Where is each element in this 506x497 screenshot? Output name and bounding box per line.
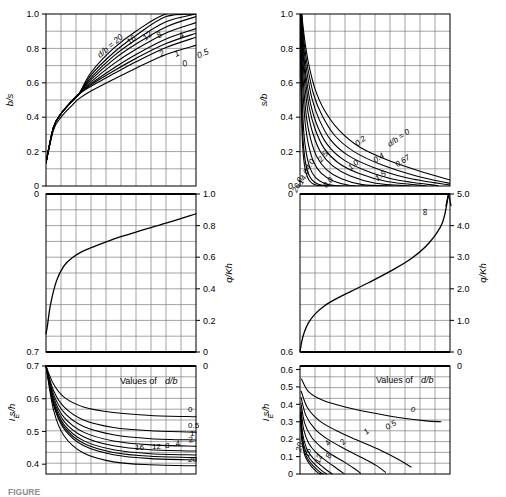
panel-mid-left: 00.71.00.80.60.40.20q/Kh <box>26 189 234 357</box>
bottom-right-ytick-label: 0.6 <box>280 365 293 375</box>
bottom-right-ytick-label: 0.5 <box>280 382 293 392</box>
bottom-left-ytick-label: 0.6 <box>26 394 39 404</box>
bottom-right-curve-label-0: 0 <box>411 405 416 414</box>
top-right-ytick-label: 0.2 <box>280 147 293 157</box>
bottom-left-curve-label-20: 20 <box>188 455 197 464</box>
figure-caption: FIGURE <box>8 487 40 497</box>
bottom-right-ytick-label: 0.1 <box>280 452 293 462</box>
mid-right-ytick-label: 2.0 <box>457 284 470 294</box>
top-right-ytick-label: 0.4 <box>280 112 293 122</box>
top-left-axis-title: b/s <box>4 93 15 106</box>
bottom-left-curve-label-16: 16 <box>135 443 144 452</box>
bottom-left-ytick-label: 0.4 <box>26 459 39 469</box>
top-right-ytick-label: 0.8 <box>280 44 293 54</box>
top-right-ytick-label: 0.6 <box>280 78 293 88</box>
bottom-left-legend-title: Values of d/b <box>120 376 178 386</box>
mid-left-ytick-label: 0.8 <box>203 221 216 231</box>
bottom-right-ytick-label: 0.4 <box>280 400 293 410</box>
bottom-right-legend-db: d/b <box>421 375 434 385</box>
bottom-right-legend-title: Values of d/b <box>376 375 434 385</box>
bottom-left-right-tick: 0 <box>203 361 208 371</box>
bottom-right-axis-title: IE s/h <box>260 404 274 422</box>
mid-right-infinity-marker: ∞ <box>419 208 430 215</box>
top-left-ytick-label: 0.4 <box>26 112 39 122</box>
bottom-left-curve-label-0: 0 <box>188 405 193 414</box>
mid-right-left-tick-top: 0 <box>288 189 293 199</box>
mid-right-ytick-label: 3.0 <box>457 252 470 262</box>
mid-right-axis-title: q/Kh <box>477 263 488 283</box>
mid-left-ytick-label: 0 <box>203 347 208 357</box>
top-left-ytick-label: 1.0 <box>26 9 39 19</box>
bottom-left-ytick-label: 0.7 <box>26 361 39 371</box>
top-left-curve-label-0.5: 0.5 <box>195 46 210 60</box>
mid-right-left-tick-bottom: 0.6 <box>280 347 293 357</box>
mid-left-ytick-label: 1.0 <box>203 189 216 199</box>
mid-right-ytick-label: 1.0 <box>457 316 470 326</box>
top-left-ytick-label: 0.6 <box>26 78 39 88</box>
bottom-right-right-tick: 0 <box>457 361 462 371</box>
panel-mid-right: 00.65.04.03.02.01.00q/Kh∞ <box>280 189 488 357</box>
mid-left-axis-title: q/Kh <box>223 263 234 283</box>
bottom-left-axis-title: IE s/h <box>6 404 20 422</box>
mid-right-ytick-label: 4.0 <box>457 221 470 231</box>
bottom-right-ytick-label: 0.3 <box>280 417 293 427</box>
top-right-axis-title: s/b <box>258 94 269 107</box>
top-right-ytick-label: 1.0 <box>280 9 293 19</box>
mid-left-left-tick-top: 0 <box>34 189 39 199</box>
bottom-right-ytick-label: 0.2 <box>280 434 293 444</box>
figure-caption-text: FIGURE <box>8 487 40 497</box>
mid-left-ytick-label: 0.4 <box>203 284 216 294</box>
top-left-ytick-label: 0.2 <box>26 147 39 157</box>
panel-bottom-left: 0.70.60.50.40IE s/hValues of d/b00.51248… <box>6 361 208 474</box>
mid-right-ytick-label: 0 <box>457 347 462 357</box>
bottom-left-curve-label-8: 8 <box>165 441 170 450</box>
nomograph-canvas: 1.00.80.60.40.20b/sd/b = 20161284210.500… <box>0 0 506 497</box>
mid-right-ytick-label: 5.0 <box>457 189 470 199</box>
mid-left-left-tick-bottom: 0.7 <box>26 347 39 357</box>
panel-bottom-right: 0.60.50.40.30.20.100IE s/hValues of d/b0… <box>260 361 462 479</box>
bottom-left-curve-label-12: 12 <box>152 442 161 451</box>
panel-top-left: 1.00.80.60.40.20b/sd/b = 20161284210.50 <box>4 9 210 191</box>
bottom-left-ytick-label: 0.5 <box>26 427 39 437</box>
bottom-left-legend-values-of: Values of <box>120 376 157 386</box>
figure-root: 1.00.80.60.40.20b/sd/b = 20161284210.500… <box>0 0 506 497</box>
bottom-right-legend-values-of: Values of <box>376 375 413 385</box>
bottom-right-axis-title-sh: s/h <box>260 404 271 417</box>
panel-top-right: 1.00.80.60.40.20s/bd/b = 00.20.40.671.01… <box>258 9 450 195</box>
bottom-left-axis-title-sh: s/h <box>6 404 17 417</box>
bottom-right-ytick-label: 0 <box>288 469 293 479</box>
top-left-ytick-label: 0.8 <box>26 44 39 54</box>
bottom-left-legend-db: d/b <box>165 376 178 386</box>
mid-left-ytick-label: 0.6 <box>203 252 216 262</box>
mid-left-ytick-label: 0.2 <box>203 316 216 326</box>
